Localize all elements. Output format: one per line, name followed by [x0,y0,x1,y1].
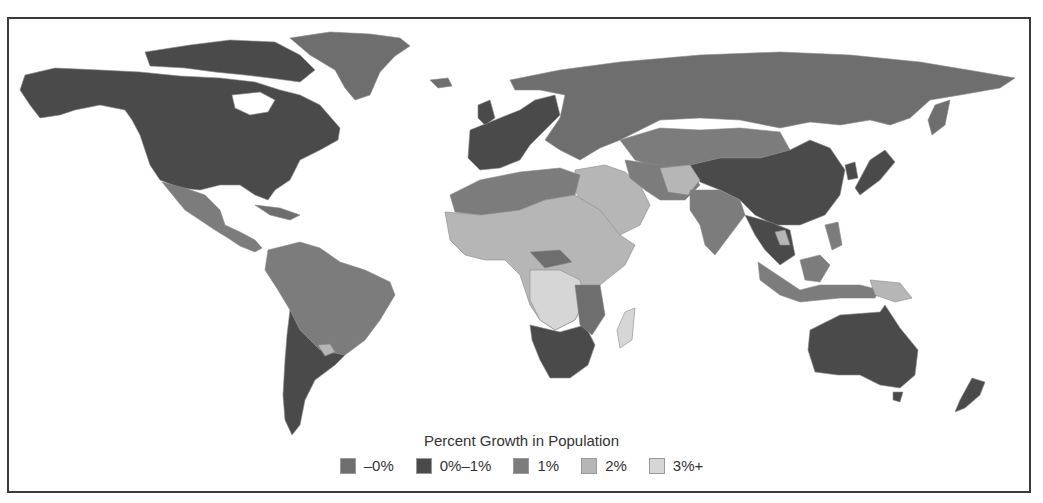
legend: –0% 0%–1% 1% 2% 3%+ [0,457,1043,474]
legend-label-neg: –0% [364,457,394,474]
legend-item-neg: –0% [340,457,394,474]
region-japan [855,150,895,195]
legend-swatch-three [649,458,665,474]
legend-item-three: 3%+ [649,457,703,474]
legend-item-low: 0%–1% [416,457,492,474]
legend-item-two: 2% [581,457,627,474]
region-south-america [265,242,395,355]
legend-title: Percent Growth in Population [0,432,1043,449]
region-india [690,190,745,255]
region-southern-africa [530,325,595,378]
region-tasmania [893,392,903,402]
region-caribbean [255,205,300,220]
region-madagascar [617,308,635,348]
region-kamchatka [928,100,950,135]
region-mexico-central-america [162,182,262,252]
legend-label-low: 0%–1% [440,457,492,474]
region-philippines [825,222,842,250]
legend-label-one: 1% [537,457,559,474]
region-australia [808,305,918,388]
region-iceland [430,78,452,88]
region-north-america [20,68,340,200]
region-papua-new-guinea [870,280,912,302]
legend-swatch-neg [340,458,356,474]
legend-label-three: 3%+ [673,457,703,474]
region-korea [845,162,858,180]
legend-swatch-one [513,458,529,474]
legend-item-one: 1% [513,457,559,474]
legend-swatch-low [416,458,432,474]
legend-swatch-two [581,458,597,474]
world-map [0,0,1043,503]
region-borneo [800,255,830,282]
legend-label-two: 2% [605,457,627,474]
region-new-zealand [955,378,985,412]
